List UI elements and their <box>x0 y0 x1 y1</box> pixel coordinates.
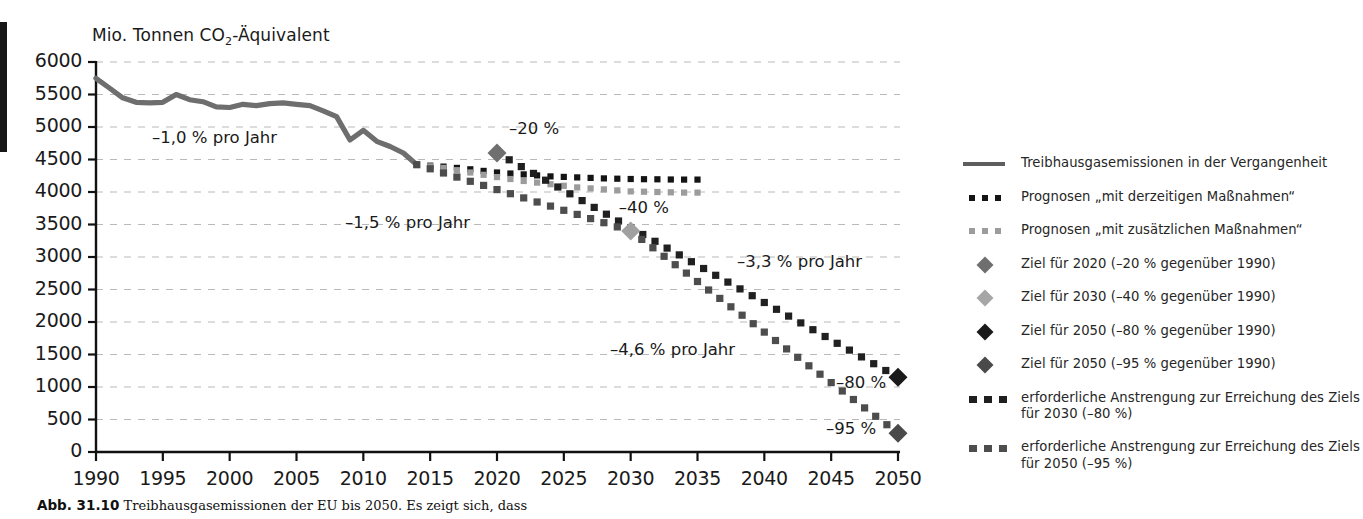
legend-diamond-icon <box>963 356 1021 373</box>
legend-dotted-line-icon <box>963 222 1021 239</box>
target-percent-label: –80 % <box>836 373 886 392</box>
x-axis-tick-label: 2035 <box>663 467 733 489</box>
rate-annotation: –3,3 % pro Jahr <box>737 252 862 271</box>
legend-item-label: erforderliche Anstrengung zur Erreichung… <box>1021 390 1360 423</box>
rate-annotation: –4,6 % pro Jahr <box>610 340 735 359</box>
chart-canvas <box>0 0 920 500</box>
y-axis-tick-label: 5000 <box>4 114 82 136</box>
x-axis-tick-label: 2005 <box>262 467 332 489</box>
legend-item-label: Prognosen „mit derzeitigen Maßnahmen“ <box>1021 189 1295 206</box>
x-axis-tick-label: 2025 <box>529 467 599 489</box>
x-axis-tick-label: 2030 <box>596 467 666 489</box>
legend-item: Ziel für 2050 (–95 % gegenüber 1990) <box>963 356 1363 373</box>
x-axis-tick-label: 2040 <box>729 467 799 489</box>
y-axis-tick-label: 500 <box>4 407 82 429</box>
legend-item: Treibhausgasemissionen in der Vergangenh… <box>963 155 1363 172</box>
figure-caption: Abb. 31.10 Treibhausgasemissionen der EU… <box>37 497 527 513</box>
legend-item: Prognosen „mit derzeitigen Maßnahmen“ <box>963 189 1363 206</box>
target-percent-label: –20 % <box>509 119 559 138</box>
y-axis-tick-label: 4000 <box>4 179 82 201</box>
caption-figure-number: Abb. 31.10 <box>37 497 119 513</box>
y-axis-tick-label: 2000 <box>4 309 82 331</box>
y-axis-tick-label: 6000 <box>4 49 82 71</box>
y-axis-tick-label: 1000 <box>4 374 82 396</box>
x-axis-tick-label: 2010 <box>328 467 398 489</box>
legend-item: Ziel für 2050 (–80 % gegenüber 1990) <box>963 323 1363 340</box>
y-axis-tick-label: 3000 <box>4 244 82 266</box>
x-axis-tick-label: 2045 <box>796 467 866 489</box>
y-axis-tick-label: 1500 <box>4 342 82 364</box>
legend-item-label: Treibhausgasemissionen in der Vergangenh… <box>1021 155 1327 172</box>
legend-dotted-line-icon <box>963 189 1021 206</box>
legend-item-label: Ziel für 2050 (–95 % gegenüber 1990) <box>1021 356 1276 373</box>
caption-text: Treibhausgasemissionen der EU bis 2050. … <box>124 498 527 513</box>
x-axis-tick-label: 2020 <box>462 467 532 489</box>
target-marker-1 <box>621 222 640 241</box>
x-axis-tick-label: 1990 <box>61 467 131 489</box>
y-axis-tick-label: 3500 <box>4 212 82 234</box>
x-axis-tick-label: 2050 <box>863 467 933 489</box>
target-marker-3 <box>889 424 908 443</box>
y-axis-tick-label: 5500 <box>4 82 82 104</box>
legend-item: erforderliche Anstrengung zur Erreichung… <box>963 390 1363 423</box>
rate-annotation: –1,0 % pro Jahr <box>152 128 277 147</box>
target-percent-label: –40 % <box>619 198 669 217</box>
legend-bold-dotted-line-icon <box>963 390 1021 407</box>
legend-item: Prognosen „mit zusätzlichen Maßnahmen“ <box>963 222 1363 239</box>
legend-item-label: erforderliche Anstrengung zur Erreichung… <box>1021 439 1360 472</box>
legend-item: erforderliche Anstrengung zur Erreichung… <box>963 439 1363 472</box>
legend-item: Ziel für 2020 (–20 % gegenüber 1990) <box>963 256 1363 273</box>
legend-diamond-icon <box>963 256 1021 273</box>
y-axis-tick-label: 0 <box>4 439 82 461</box>
legend-bold-dotted-line-icon <box>963 439 1021 456</box>
rate-annotation: –1,5 % pro Jahr <box>345 213 470 232</box>
legend-diamond-icon <box>963 323 1021 340</box>
target-marker-2 <box>889 368 908 387</box>
legend-item-label: Prognosen „mit zusätzlichen Maßnahmen“ <box>1021 222 1303 239</box>
x-axis-tick-label: 1995 <box>128 467 198 489</box>
series-historical <box>96 78 417 164</box>
target-percent-label: –95 % <box>826 419 876 438</box>
emissions-chart: Mio. Tonnen CO2-Äquivalent 6000550050004… <box>0 0 920 500</box>
x-axis-tick-label: 2000 <box>195 467 265 489</box>
legend-item-label: Ziel für 2030 (–40 % gegenüber 1990) <box>1021 289 1276 306</box>
x-axis-tick-label: 2015 <box>395 467 465 489</box>
legend-item: Ziel für 2030 (–40 % gegenüber 1990) <box>963 289 1363 306</box>
legend-item-label-line2: für 2050 (–95 %) <box>1021 456 1360 473</box>
legend-item-label: Ziel für 2020 (–20 % gegenüber 1990) <box>1021 256 1276 273</box>
legend-item-label-line2: für 2030 (–80 %) <box>1021 406 1360 423</box>
legend-solid-line-icon <box>963 155 1021 172</box>
chart-legend: Treibhausgasemissionen in der Vergangenh… <box>963 155 1363 489</box>
legend-item-label: Ziel für 2050 (–80 % gegenüber 1990) <box>1021 323 1276 340</box>
y-axis-tick-label: 2500 <box>4 277 82 299</box>
legend-diamond-icon <box>963 289 1021 306</box>
y-axis-tick-label: 4500 <box>4 147 82 169</box>
